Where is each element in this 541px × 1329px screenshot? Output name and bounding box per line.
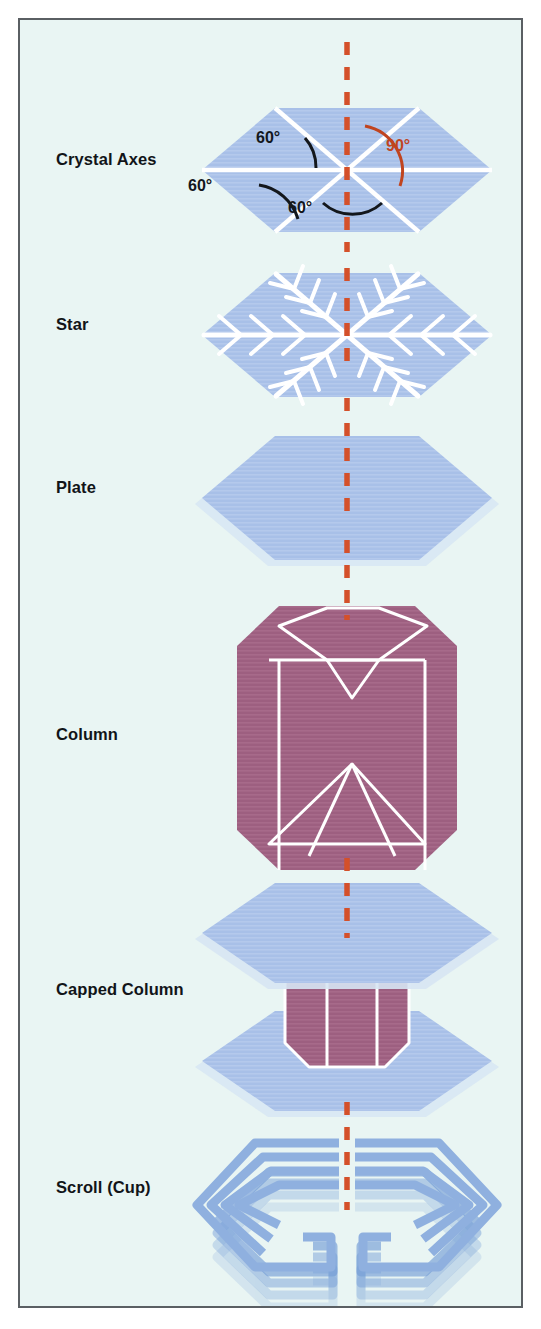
row-label-plate: Plate <box>56 479 96 496</box>
arc-60-bottom <box>323 203 382 214</box>
crystal-axes-drawing <box>202 108 492 232</box>
row-label-star: Star <box>56 316 89 333</box>
column-body <box>237 606 457 870</box>
angle-label-90-upper-right: 90° <box>386 138 410 154</box>
scroll-cup-rings <box>197 1143 497 1267</box>
column-drawing <box>237 606 457 870</box>
scroll-cup-drawing <box>197 1143 497 1307</box>
row-label-scroll-cup: Scroll (Cup) <box>56 1179 151 1196</box>
capped-column-drawing <box>195 883 499 1117</box>
star-drawing <box>202 266 492 404</box>
plate-shadow-edge <box>195 442 499 566</box>
crystal-axes-lines <box>202 108 492 232</box>
crystal-drawings <box>20 20 523 1308</box>
angle-label-60-lower-left: 60° <box>188 178 212 194</box>
capped-column-upper-plate <box>195 883 499 989</box>
angle-arcs <box>259 126 402 219</box>
arc-90-upper-right <box>365 126 402 186</box>
crystal-axes-hexagon <box>202 108 492 232</box>
capped-column-lower-plate <box>195 1011 499 1117</box>
snow-crystal-forms-figure: Crystal Axes Star Plate Column Capped Co… <box>18 18 523 1308</box>
row-label-capped-column: Capped Column <box>56 981 184 998</box>
star-hexagon <box>202 273 492 397</box>
angle-label-60-bottom: 60° <box>288 200 312 216</box>
arc-60-upper-left <box>305 138 316 168</box>
plate-hexagon <box>202 436 492 560</box>
row-label-crystal-axes: Crystal Axes <box>56 151 157 168</box>
star-dendrite-arms <box>204 266 490 404</box>
column-construction-lines <box>269 608 427 870</box>
angle-label-60-upper-left: 60° <box>256 130 280 146</box>
scroll-cup-stack <box>217 1172 477 1307</box>
row-label-column: Column <box>56 726 118 743</box>
plate-drawing <box>195 436 499 566</box>
capped-column-column <box>285 963 409 1067</box>
